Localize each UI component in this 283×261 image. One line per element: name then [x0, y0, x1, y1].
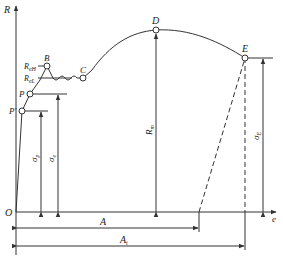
- label-P: P: [18, 89, 25, 99]
- point-E-marker: [242, 55, 248, 61]
- label-At: At: [119, 234, 128, 246]
- label-sigma-e: σe: [46, 155, 57, 162]
- origin-label: O: [5, 207, 12, 218]
- label-ReL: ReL: [23, 74, 36, 84]
- point-P-marker: [27, 91, 33, 97]
- unload-line: [199, 58, 245, 212]
- label-P-prime: P': [8, 106, 17, 116]
- point-C-marker: [80, 75, 86, 81]
- label-E: E: [241, 43, 248, 54]
- point-D-marker: [153, 27, 159, 33]
- label-sigma-E: σE: [251, 132, 262, 140]
- point-P-prime-marker: [19, 108, 25, 114]
- x-axis-label: e: [272, 214, 276, 224]
- label-sigma-p: σp: [29, 155, 40, 162]
- stress-strain-diagram: R e O P' P B C D E ReH ReL σp σe Rm σE A…: [0, 0, 283, 261]
- y-axis-label: R: [3, 4, 10, 15]
- label-A: A: [99, 216, 107, 227]
- label-D: D: [151, 15, 160, 26]
- point-B-marker: [44, 63, 50, 69]
- label-Rm: Rm: [144, 125, 155, 137]
- stress-strain-curve: [16, 30, 245, 212]
- label-B: B: [44, 53, 50, 63]
- label-ReH: ReH: [23, 62, 37, 72]
- label-C: C: [80, 65, 87, 75]
